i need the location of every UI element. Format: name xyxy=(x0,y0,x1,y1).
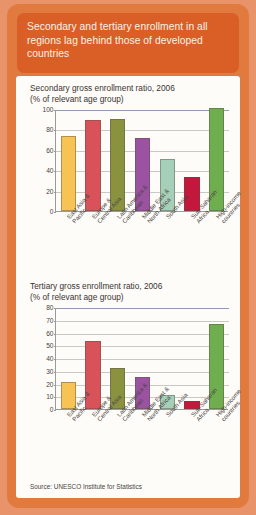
gridline-80 xyxy=(56,308,229,309)
ytick-label: 40 xyxy=(46,168,53,175)
content-card: Secondary gross enrollment ratio, 2006 (… xyxy=(16,76,240,498)
page-title: Secondary and tertiary enrollment in all… xyxy=(27,20,233,61)
ytick-mark-40 xyxy=(54,171,56,172)
ytick-mark-20 xyxy=(54,192,56,193)
ytick-label: 80 xyxy=(46,127,53,134)
poster-frame: Secondary and tertiary enrollment in all… xyxy=(7,4,249,508)
ytick-mark-80 xyxy=(54,130,56,131)
ytick-label: 20 xyxy=(46,188,53,195)
ytick-mark-40 xyxy=(54,359,56,360)
ytick-label: 30 xyxy=(46,368,53,375)
ytick-label: 20 xyxy=(46,381,53,388)
ytick-mark-20 xyxy=(54,385,56,386)
chart-0-title: Secondary gross enrollment ratio, 2006 (… xyxy=(30,83,230,104)
ytick-mark-30 xyxy=(54,372,56,373)
gridline-80 xyxy=(56,130,229,131)
ytick-label: 60 xyxy=(46,330,53,337)
ytick-mark-10 xyxy=(54,397,56,398)
source-note: Source: UNESCO Institute for Statistics xyxy=(30,483,142,490)
gridline-100 xyxy=(56,110,229,111)
chart-1-title: Tertiary gross enrollment ratio, 2006 (%… xyxy=(30,281,230,302)
ytick-mark-50 xyxy=(54,346,56,347)
gridline-60 xyxy=(56,334,229,335)
ytick-mark-0 xyxy=(54,410,56,411)
ytick-mark-60 xyxy=(54,334,56,335)
gridline-30 xyxy=(56,372,229,373)
ytick-label: 80 xyxy=(46,305,53,312)
ytick-label: 100 xyxy=(42,107,53,114)
ytick-label: 60 xyxy=(46,148,53,155)
gridline-50 xyxy=(56,346,229,347)
ytick-label: 0 xyxy=(50,407,54,414)
ytick-mark-70 xyxy=(54,321,56,322)
ytick-mark-100 xyxy=(54,110,56,111)
chart-0-title-text: Secondary gross enrollment ratio, 2006 xyxy=(30,83,175,93)
ytick-label: 50 xyxy=(46,343,53,350)
ytick-mark-0 xyxy=(54,212,56,213)
gridline-40 xyxy=(56,359,229,360)
ytick-label: 40 xyxy=(46,356,53,363)
ytick-label: 70 xyxy=(46,317,53,324)
ytick-mark-80 xyxy=(54,308,56,309)
chart-tertiary-enrollment: Tertiary gross enrollment ratio, 2006 (%… xyxy=(16,274,240,474)
ytick-mark-60 xyxy=(54,151,56,152)
chart-secondary-enrollment: Secondary gross enrollment ratio, 2006 (… xyxy=(16,76,240,276)
gridline-70 xyxy=(56,321,229,322)
chart-1-subtitle-text: (% of relevant age group) xyxy=(30,292,124,302)
chart-0-subtitle-text: (% of relevant age group) xyxy=(30,94,124,104)
ytick-label: 0 xyxy=(50,209,54,216)
bar xyxy=(61,136,76,211)
ytick-label: 10 xyxy=(46,394,53,401)
chart-1-title-text: Tertiary gross enrollment ratio, 2006 xyxy=(30,281,162,291)
header-banner: Secondary and tertiary enrollment in all… xyxy=(17,13,239,73)
